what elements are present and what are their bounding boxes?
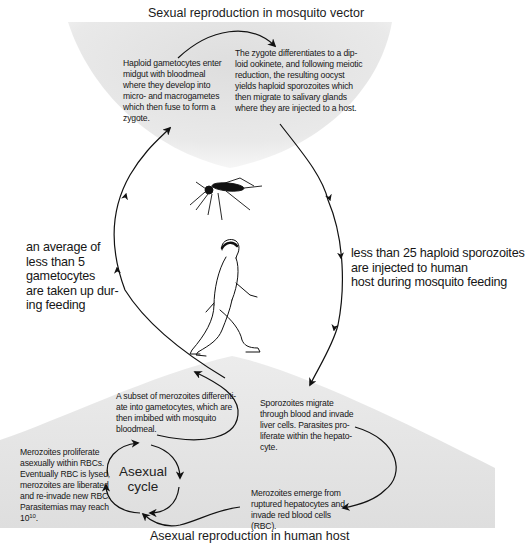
gametocyte-uptake-annotation: an average of less than 5 gametocytes ar… — [26, 240, 119, 313]
asexual-cycle-label: Asexual cycle — [118, 464, 168, 494]
parasitemia-value: 1010. — [20, 513, 110, 524]
gametocyte-entry-text: Haploid gametocytes enter midgut with bl… — [123, 58, 221, 124]
walking-human-icon — [190, 239, 260, 356]
zygote-differentiation-text: The zygote differentiates to a dip- loid… — [235, 48, 362, 114]
gametocyte-differentiation-text: A subset of merozoites differenti- ate i… — [116, 391, 236, 435]
merozoite-emergence-text: Merozoites emerge from ruptured hepatocy… — [251, 488, 345, 532]
mosquito-icon — [190, 178, 262, 220]
top-title: Sexual reproduction in mosquito vector — [148, 6, 364, 20]
rbc-proliferation-text: Merozoites proliferate asexually within … — [20, 447, 110, 524]
sporozoite-injection-annotation: less than 25 haploid sporozoites are inj… — [351, 246, 525, 290]
arrow-human-to-mosquito — [114, 128, 225, 378]
arrow-mosquito-to-human — [280, 124, 342, 385]
liver-invasion-text: Sporozoites migrate through blood and in… — [260, 398, 353, 453]
